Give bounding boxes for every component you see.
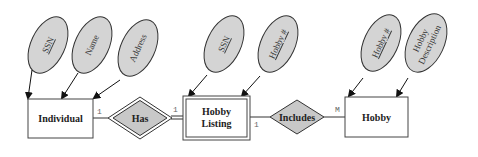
relationship-label: Includes xyxy=(279,112,315,123)
entity-hobby-listing: Hobby Listing xyxy=(183,96,250,140)
attribute-name: Name xyxy=(62,11,120,98)
attribute-arrow xyxy=(94,80,120,98)
attribute-ssn-hobby-listing: SSN xyxy=(189,10,252,96)
attribute-ssn-individual: SSN xyxy=(20,11,76,98)
attribute-arrow xyxy=(397,78,408,96)
attribute-hobby-number-listing: Hobby # xyxy=(242,10,306,96)
relationship-includes: Includes xyxy=(270,100,324,134)
entity-hobby: Hobby xyxy=(345,97,408,137)
cardinality-label: M xyxy=(335,105,340,114)
cardinality-label: 1 xyxy=(173,105,178,114)
attribute-hobby-description: Hobby Description xyxy=(397,7,456,96)
attribute-arrow xyxy=(62,73,78,98)
entity-label-line1: Hobby xyxy=(202,106,231,117)
entity-label: Individual xyxy=(38,113,83,124)
er-diagram: SSN Name Address SSN Hobby # Hobby # Hob… xyxy=(0,0,478,157)
relationship-has: Has xyxy=(108,97,172,139)
attribute-arrow xyxy=(189,75,207,96)
attribute-arrow xyxy=(349,78,363,96)
entity-individual: Individual xyxy=(28,99,93,138)
cardinality-label: 1 xyxy=(254,120,259,129)
cardinality-label: 1 xyxy=(97,107,102,116)
relationship-label: Has xyxy=(132,113,149,124)
attribute-arrow xyxy=(242,76,260,96)
attribute-hobby-number: Hobby # xyxy=(349,9,409,96)
attribute-arrow xyxy=(28,70,32,98)
entity-label-line2: Listing xyxy=(201,118,231,129)
entity-label: Hobby xyxy=(362,112,391,123)
